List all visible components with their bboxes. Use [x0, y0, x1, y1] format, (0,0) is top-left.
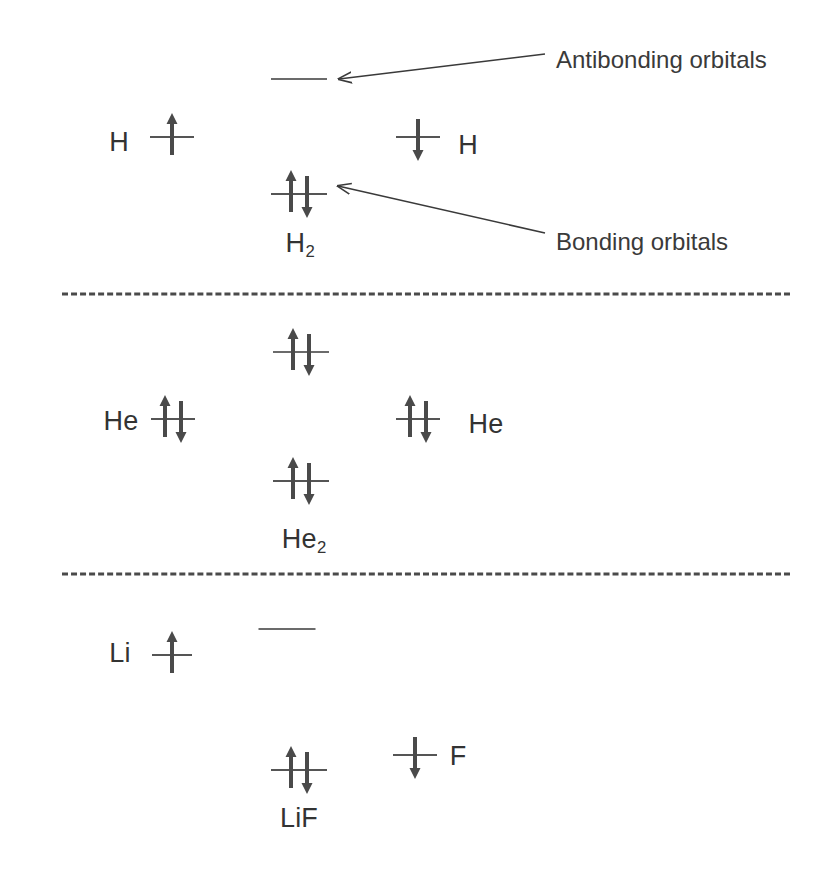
- mo-diagram-figure: HHH2 HeHeHe2 LiFLiF Antibonding orbitals…: [0, 0, 833, 873]
- electron-arrow-up: [287, 326, 299, 372]
- electron-arrow-down: [175, 399, 187, 445]
- orbital-level-atomic: [151, 418, 195, 420]
- bonding-callout-label: Bonding orbitals: [556, 230, 728, 254]
- electron-arrow-down: [409, 735, 421, 781]
- section-divider-1: [62, 293, 790, 296]
- electron-arrow-up: [166, 629, 178, 675]
- molecule-label-h2: H2: [285, 230, 314, 257]
- atom-label-he: He: [469, 411, 504, 438]
- electron-arrow-down: [303, 461, 315, 507]
- electron-arrow-down: [412, 117, 424, 163]
- electron-arrow-up: [404, 393, 416, 439]
- orbital-level-bonding: [273, 480, 329, 482]
- electron-arrow-up: [285, 744, 297, 790]
- molecule-label-he2: He2: [282, 526, 326, 553]
- electron-arrow-down: [303, 332, 315, 378]
- electron-arrow-up: [159, 393, 171, 439]
- orbital-level-atomic: [396, 418, 440, 420]
- section-divider-2: [62, 573, 790, 576]
- atom-label-li: Li: [109, 640, 130, 667]
- atom-label-he: He: [104, 408, 139, 435]
- orbital-level-antibonding: [259, 628, 316, 630]
- atom-label-h: H: [458, 132, 478, 159]
- orbital-level-antibonding: [271, 78, 327, 80]
- electron-arrow-up: [287, 455, 299, 501]
- molecule-label-lif: LiF: [280, 805, 318, 832]
- orbital-level-antibonding: [273, 351, 329, 353]
- electron-arrow-down: [301, 750, 313, 796]
- electron-arrow-down: [420, 399, 432, 445]
- atom-label-h: H: [109, 129, 129, 156]
- callout-arrow-antibonding: [339, 54, 545, 79]
- antibonding-callout-label: Antibonding orbitals: [556, 48, 767, 72]
- callout-arrow-bonding: [338, 186, 545, 233]
- orbital-level-bonding: [271, 193, 327, 195]
- orbital-level-bonding: [271, 769, 327, 771]
- electron-arrow-up: [285, 168, 297, 214]
- atom-label-f: F: [450, 743, 467, 770]
- electron-arrow-down: [301, 174, 313, 220]
- electron-arrow-up: [166, 111, 178, 157]
